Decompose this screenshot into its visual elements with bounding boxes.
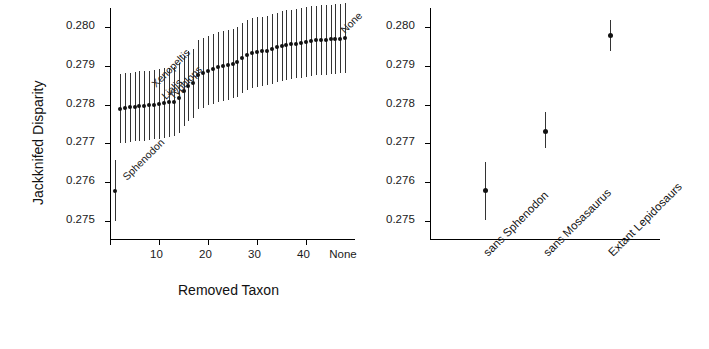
data-point — [314, 38, 318, 42]
data-point — [270, 47, 274, 51]
figure-root: 0.2750.2760.2770.2780.2790.280 10203040N… — [0, 0, 709, 349]
y-tick — [105, 105, 110, 106]
y-tick-label: 0.279 — [386, 58, 415, 70]
y-tick — [105, 66, 110, 67]
y-tick-label: 0.277 — [386, 135, 415, 147]
x-tick — [257, 240, 258, 245]
y-tick-label: 0.276 — [386, 174, 415, 186]
data-point — [338, 37, 342, 41]
y-tick — [425, 66, 430, 67]
data-point — [284, 43, 288, 47]
data-point — [240, 56, 244, 60]
data-point — [343, 36, 347, 40]
data-point — [231, 62, 235, 66]
y-tick-label: 0.280 — [66, 19, 95, 31]
data-point — [319, 38, 323, 42]
y-tick-label: 0.278 — [66, 97, 95, 109]
data-point — [123, 106, 127, 110]
data-point — [329, 37, 333, 41]
y-tick — [425, 105, 430, 106]
data-point — [304, 40, 308, 44]
data-point — [157, 102, 161, 106]
data-point — [226, 63, 230, 67]
data-point — [137, 104, 141, 108]
y-tick — [425, 143, 430, 144]
left-panel-y-axis-title: Jackknifed Disparity — [30, 81, 46, 206]
y-tick — [425, 27, 430, 28]
data-point — [113, 189, 117, 193]
y-tick-label: 0.275 — [66, 213, 95, 225]
data-point — [206, 69, 210, 73]
x-tick-label-none: None — [329, 248, 357, 260]
data-point — [543, 129, 548, 134]
x-tick-label: 10 — [150, 248, 163, 260]
x-tick-label: 40 — [297, 248, 310, 260]
data-point — [255, 50, 259, 54]
data-point — [333, 37, 337, 41]
data-point — [118, 107, 122, 111]
y-tick-label: 0.278 — [386, 97, 415, 109]
y-tick-label: 0.279 — [66, 58, 95, 70]
x-tick — [208, 240, 209, 245]
data-point — [245, 53, 249, 57]
y-tick-label: 0.277 — [66, 135, 95, 147]
y-tick — [105, 143, 110, 144]
data-point — [299, 41, 303, 45]
data-point — [128, 105, 132, 109]
x-tick-label: 30 — [248, 248, 261, 260]
x-tick — [306, 240, 307, 245]
data-point — [250, 51, 254, 55]
y-tick-label: 0.275 — [386, 213, 415, 225]
data-point — [275, 45, 279, 49]
data-point — [152, 103, 156, 107]
data-point — [221, 64, 225, 68]
data-point — [483, 188, 488, 193]
data-point — [324, 38, 328, 42]
left-panel-plot-area — [110, 8, 355, 240]
x-tick-label: 20 — [199, 248, 212, 260]
left-panel-x-axis-title: Removed Taxon — [178, 282, 279, 298]
data-point — [294, 42, 298, 46]
y-tick — [425, 221, 430, 222]
y-tick — [105, 221, 110, 222]
y-tick — [105, 27, 110, 28]
left-panel — [110, 8, 355, 240]
data-point — [211, 67, 215, 71]
data-point — [280, 44, 284, 48]
right-panel-plot-area — [430, 8, 660, 240]
data-point — [309, 39, 313, 43]
data-point — [142, 104, 146, 108]
y-tick-label: 0.276 — [66, 174, 95, 186]
data-point — [133, 105, 137, 109]
data-point — [260, 49, 264, 53]
right-panel — [430, 8, 660, 240]
y-tick-label: 0.280 — [386, 19, 415, 31]
data-point — [147, 103, 151, 107]
data-point — [162, 101, 166, 105]
y-tick — [105, 182, 110, 183]
data-point — [265, 49, 269, 53]
data-point — [216, 65, 220, 69]
y-tick — [425, 182, 430, 183]
x-tick — [110, 240, 111, 245]
data-point — [289, 42, 293, 46]
data-point — [235, 60, 239, 64]
data-point — [608, 33, 613, 38]
x-tick — [159, 240, 160, 245]
